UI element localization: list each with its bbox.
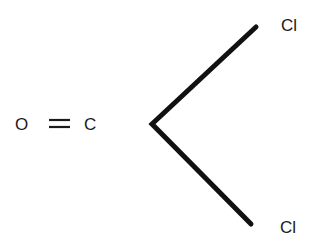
molecule-diagram: O C Cl Cl	[0, 0, 329, 248]
carbon-chlorine-bonds	[152, 27, 256, 224]
atom-oxygen: O	[15, 116, 28, 133]
atom-chlorine-bottom: Cl	[280, 219, 296, 236]
bond-lines	[0, 0, 329, 248]
atom-carbon: C	[84, 116, 96, 133]
atom-chlorine-top: Cl	[281, 17, 297, 34]
